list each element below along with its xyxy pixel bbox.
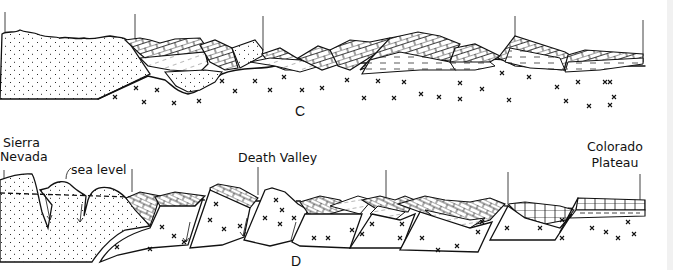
basement-crosses-d (115, 198, 636, 252)
fault-block-5-strata (300, 196, 350, 216)
sierra-nevada-label-line1: Sierra (3, 136, 40, 150)
panel-c-label: C (295, 104, 305, 118)
fault-block-6-basement (350, 214, 415, 248)
sierra-nevada-block (0, 174, 150, 262)
plateau-strata-d-lower (570, 210, 645, 218)
fault-block-5-hatch (330, 196, 372, 214)
fault-slip-arrows (45, 195, 296, 242)
fault-block-7-hatch (425, 210, 485, 228)
fault-block-3-strata (210, 184, 258, 208)
geologic-cross-section-figure: C (0, 0, 673, 270)
sea-level-label: sea level (71, 163, 127, 177)
fault-block-7-basement (400, 212, 492, 252)
plateau-boundary-fault (560, 198, 578, 232)
fault-block-8-strata (508, 202, 574, 224)
colorado-plateau-label-line1: Colorado (580, 140, 650, 154)
thrust-sheet-7 (450, 44, 500, 64)
sea-level-line (0, 193, 645, 210)
fault-block-6-strata (362, 196, 415, 212)
fault-block-1-strata (126, 192, 160, 226)
fault-block-2-basement (100, 198, 203, 262)
fault-block-3-basement (190, 190, 250, 248)
fault-block-4-basement (244, 188, 308, 246)
fault-block-6-hatch (370, 206, 405, 220)
colorado-plateau-label-line2: Plateau (580, 156, 650, 170)
sierra-nevada-label-line2: Nevada (0, 150, 48, 164)
death-valley-label: Death Valley (238, 151, 317, 165)
fault-block-8-basement (490, 206, 572, 240)
layered-sheet-7 (450, 62, 495, 70)
fault-block-2-strata (155, 192, 205, 210)
fault-block-7-strata (398, 196, 505, 226)
plateau-strata-d (576, 198, 645, 210)
stippled-basin-c (165, 70, 222, 92)
fault-block-5-basement (292, 214, 362, 248)
panel-d-label: D (291, 254, 301, 268)
panel-c-section (0, 0, 673, 130)
